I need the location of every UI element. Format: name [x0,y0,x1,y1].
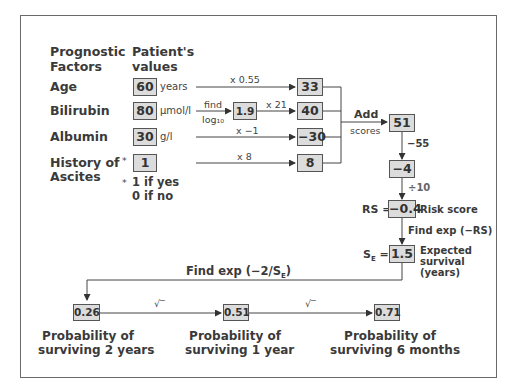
unit-albumin: g/l [160,131,173,142]
note-marker: * [122,177,127,188]
sqrt-icon: √‾ [154,298,165,309]
score-box-albumin: −30 [297,128,323,146]
se-prefix: SE = [363,248,389,266]
factor-label-ascites: History ofAscites [50,156,119,184]
risk-score-box: −0.4 [388,200,416,218]
op-albumin: x −1 [236,125,259,136]
factor-label-albumin: Albumin [50,130,108,144]
factor-label-bilirubin: Bilirubin [50,104,110,118]
caption-6-months: Probability ofsurviving 6 months [330,329,450,357]
adjusted-score-box: −4 [389,160,415,178]
risk-score-label: Risk score [420,204,478,215]
header-patient-values: Patient'svalues [132,44,194,74]
expected-survival-box: 1.5 [389,245,415,263]
total-score-box: 51 [389,114,415,132]
formula-find-exp: Find exp (−2/SE) [186,264,291,283]
add-label: Add [354,108,378,122]
value-box-ascites: 1 [133,154,157,172]
ascites-note: 1 if yes0 if no [132,175,179,203]
score-box-bilirubin: 40 [297,102,323,120]
value-box-age: 60 [133,78,157,96]
unit-bilirubin: µmol/l [160,105,191,116]
probability-box-2-years: 0.26 [73,304,100,321]
score-box-ascites: 8 [297,154,323,172]
ascites-marker: * [122,155,127,166]
score-box-age: 33 [297,78,323,96]
op-find: find [204,99,222,110]
op-divide-10: ÷10 [408,182,430,193]
value-box-bilirubin: 80 [133,102,157,120]
factor-label-age: Age [50,80,77,94]
op-log10: log₁₀ [202,114,224,125]
probability-box-6-months: 0.71 [374,304,400,321]
value-box-albumin: 30 [133,128,157,146]
op-minus-55: −55 [407,138,429,149]
op-ascites: x 8 [237,151,252,162]
caption-2-years: Probability ofsurviving 2 years [38,329,138,357]
caption-1-year: Probability ofsurviving 1 year [185,329,285,357]
intermediate-box-log-bilirubin: 1.9 [233,102,257,120]
expected-survival-label: Expectedsurvival(years) [420,245,472,278]
op-find-exp-rs: Find exp (−RS) [408,225,492,236]
sqrt-icon: √‾ [305,298,316,309]
op-bilirubin: x 21 [266,99,287,110]
unit-age: years [160,81,188,92]
probability-box-1-year: 0.51 [223,304,249,321]
scores-label: scores [350,125,380,136]
op-age: x 0.55 [230,74,260,85]
header-prognostic-factors: PrognosticFactors [50,44,125,74]
